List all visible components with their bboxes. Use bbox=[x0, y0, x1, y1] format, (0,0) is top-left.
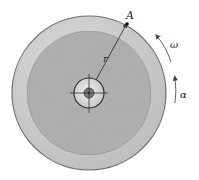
disk-diagram: A r ω α bbox=[0, 0, 199, 180]
omega-label: ω bbox=[170, 39, 178, 50]
alpha-label: α bbox=[180, 89, 187, 100]
point-a-marker bbox=[125, 22, 129, 26]
alpha-arrow bbox=[175, 78, 176, 103]
omega-arrow bbox=[157, 36, 171, 62]
point-a-label: A bbox=[125, 9, 134, 22]
